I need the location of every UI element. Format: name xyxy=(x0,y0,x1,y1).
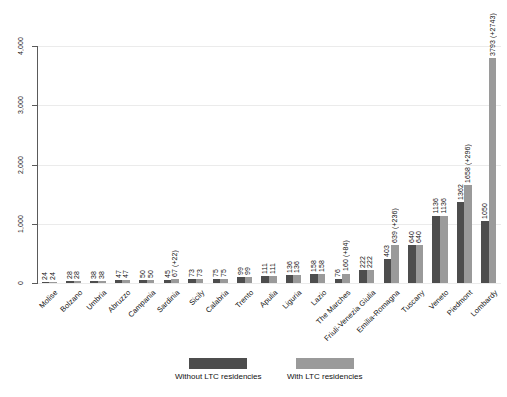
y-axis-tick-mark xyxy=(32,46,38,47)
bar-group[interactable]: 640640 xyxy=(408,46,423,283)
bar-value-label: 47 xyxy=(115,270,122,278)
bar-value-label: 28 xyxy=(66,271,73,279)
bar-with-ltc[interactable] xyxy=(342,274,350,283)
bar-group[interactable]: 136136 xyxy=(286,46,301,283)
bar-with-ltc[interactable] xyxy=(74,281,82,283)
bar-without-ltc[interactable] xyxy=(384,259,392,283)
bar-with-ltc[interactable] xyxy=(318,274,326,283)
bar-without-ltc[interactable] xyxy=(310,274,318,283)
bar-with-ltc[interactable] xyxy=(147,280,155,283)
y-axis-tick-mark xyxy=(32,105,38,106)
bar-group[interactable]: 111111 xyxy=(261,46,276,283)
bar-with-ltc[interactable] xyxy=(489,58,497,283)
bar-with-ltc[interactable] xyxy=(367,270,375,283)
x-axis-label-calabria: Calabria xyxy=(204,288,231,315)
bar-group[interactable]: 158158 xyxy=(310,46,325,283)
bar-group[interactable]: 7373 xyxy=(188,46,203,283)
bar-without-ltc[interactable] xyxy=(481,221,489,283)
bar-without-ltc[interactable] xyxy=(432,216,440,283)
bar-group[interactable]: 7575 xyxy=(213,46,228,283)
bar-without-ltc[interactable] xyxy=(359,270,367,283)
bar-group[interactable]: 5050 xyxy=(139,46,154,283)
x-axis-label-bolzano: Bolzano xyxy=(58,288,84,314)
bar-with-ltc[interactable] xyxy=(391,245,399,283)
bar-group[interactable]: 3838 xyxy=(90,46,105,283)
y-axis-tick-label: 3,000 xyxy=(17,91,24,119)
bar-with-ltc[interactable] xyxy=(293,275,301,283)
x-axis-label-tuscany: Tuscany xyxy=(399,288,426,315)
bar-with-ltc[interactable] xyxy=(98,281,106,283)
x-axis-label-sardinia: Sardinia xyxy=(155,288,181,314)
bar-without-ltc[interactable] xyxy=(164,280,172,283)
bar-value-label: 158 xyxy=(310,260,317,272)
bar-with-ltc[interactable] xyxy=(122,280,130,283)
bar-without-ltc[interactable] xyxy=(237,277,245,283)
x-axis-label-apulia: Apulia xyxy=(258,288,280,310)
bar-chart: 242428283838474750504567 (+22)7373757599… xyxy=(0,0,507,397)
bar-with-ltc[interactable] xyxy=(440,216,448,283)
bar-value-label: 222 xyxy=(359,256,366,268)
bar-value-label: 222 xyxy=(366,256,373,268)
bar-value-label: 75 xyxy=(212,269,219,277)
bar-value-label: 111 xyxy=(261,263,268,274)
bar-without-ltc[interactable] xyxy=(188,279,196,283)
bar-without-ltc[interactable] xyxy=(42,282,50,283)
bar-without-ltc[interactable] xyxy=(115,280,123,283)
bar-value-label: 73 xyxy=(188,269,195,277)
bar-with-ltc[interactable] xyxy=(220,279,228,283)
bar-without-ltc[interactable] xyxy=(286,275,294,283)
bar-value-label: 1136 xyxy=(432,198,439,213)
bar-value-label: 639 (+236) xyxy=(391,208,398,243)
bar-value-label: 45 xyxy=(164,270,171,278)
bar-value-label: 1136 xyxy=(440,198,447,213)
legend-label: Without LTC residencies xyxy=(175,372,262,381)
bar-without-ltc[interactable] xyxy=(66,281,74,283)
bar-with-ltc[interactable] xyxy=(171,279,179,283)
bar-value-label: 24 xyxy=(49,272,56,280)
bar-value-label: 38 xyxy=(98,271,105,279)
bar-value-label: 111 xyxy=(269,263,276,274)
bar-value-label: 99 xyxy=(237,267,244,275)
bar-without-ltc[interactable] xyxy=(213,279,221,283)
x-axis-label-molise: Molise xyxy=(37,288,59,310)
bar-without-ltc[interactable] xyxy=(408,245,416,283)
bar-value-label: 99 xyxy=(244,267,251,275)
y-axis-tick-label: 1,000 xyxy=(17,210,24,238)
y-axis-tick-label: 4,000 xyxy=(17,32,24,60)
bar-with-ltc[interactable] xyxy=(416,245,424,283)
legend-swatch xyxy=(296,358,354,369)
bar-with-ltc[interactable] xyxy=(196,279,204,283)
x-axis-label-liguria: Liguria xyxy=(281,288,304,311)
bar-value-label: 28 xyxy=(73,271,80,279)
bar-with-ltc[interactable] xyxy=(269,276,277,283)
bar-without-ltc[interactable] xyxy=(139,280,147,283)
bar-value-label: 136 xyxy=(293,261,300,273)
bar-group[interactable]: 11361136 xyxy=(432,46,447,283)
bar-with-ltc[interactable] xyxy=(245,277,253,283)
bar-group[interactable]: 4747 xyxy=(115,46,130,283)
bar-with-ltc[interactable] xyxy=(49,282,57,283)
bar-group[interactable]: 4567 (+22) xyxy=(164,46,179,283)
bar-group[interactable]: 403639 (+236) xyxy=(384,46,399,283)
bar-group[interactable]: 76160 (+84) xyxy=(335,46,350,283)
bar-value-label: 160 (+84) xyxy=(342,240,349,271)
x-axis-label-lazio: Lazio xyxy=(309,288,328,307)
bar-without-ltc[interactable] xyxy=(335,279,343,284)
bar-without-ltc[interactable] xyxy=(261,276,269,283)
bar-without-ltc[interactable] xyxy=(90,281,98,283)
legend-entry-without-ltc[interactable]: Without LTC residencies xyxy=(175,358,262,381)
bar-group[interactable]: 10503793 (+2743) xyxy=(481,46,496,283)
bar-value-label: 1658 (+296) xyxy=(464,144,471,183)
bar-without-ltc[interactable] xyxy=(457,202,465,283)
bar-group[interactable]: 2828 xyxy=(66,46,81,283)
legend-entry-with-ltc[interactable]: With LTC residencies xyxy=(287,358,362,381)
bar-value-label: 640 xyxy=(408,231,415,243)
bar-value-label: 47 xyxy=(122,270,129,278)
bar-group[interactable]: 222222 xyxy=(359,46,374,283)
bar-with-ltc[interactable] xyxy=(464,185,472,283)
bar-value-label: 76 xyxy=(334,269,341,277)
bar-value-label: 136 xyxy=(286,261,293,273)
bar-group[interactable]: 13621658 (+296) xyxy=(457,46,472,283)
bar-group[interactable]: 2424 xyxy=(42,46,57,283)
bar-group[interactable]: 9999 xyxy=(237,46,252,283)
